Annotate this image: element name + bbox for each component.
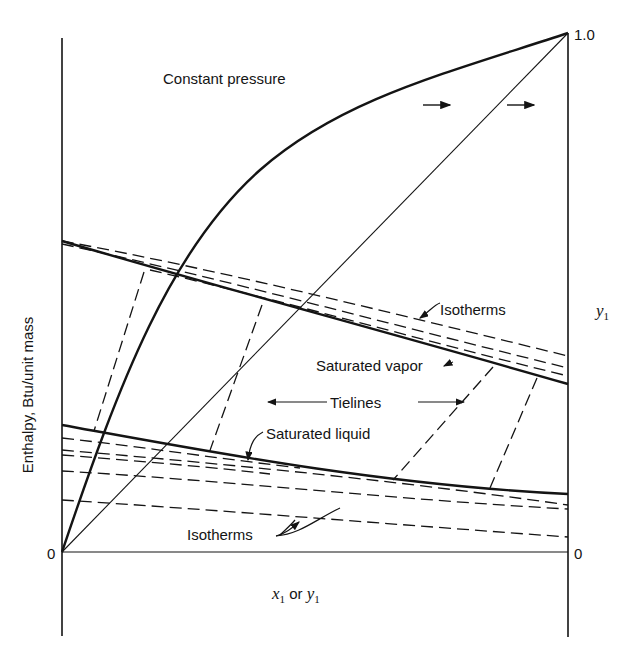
right-axis-var: y [596,301,604,320]
saturated-vapor-label: Saturated vapor [316,358,423,373]
saturated-liquid-label: Saturated liquid [266,426,370,441]
y-axis-label: Enthalpy, Btu/unit mass [19,317,36,473]
axes [62,33,568,637]
x-var1: x [272,584,280,603]
x-or: or [285,585,307,602]
x-axis-label: x1 or y1 [272,585,320,605]
enthalpy-composition-diagram [0,0,632,657]
tielines-label: Tielines [330,395,381,410]
isotherms-top-label: Isotherms [440,302,506,317]
x-sub2: 1 [314,593,320,605]
right-one-tick: 1.0 [574,27,595,42]
isotherms-bottom-label: Isotherms [187,527,253,542]
left-zero-tick: 0 [47,546,55,561]
title-label: Constant pressure [163,71,286,86]
right-axis-sub: 1 [604,310,610,322]
right-axis-label: y1 [596,302,609,322]
label-leaders [248,303,464,536]
right-zero-tick: 0 [574,546,582,561]
